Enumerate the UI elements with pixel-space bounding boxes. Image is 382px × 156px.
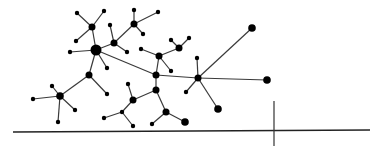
- graph-node: [56, 120, 60, 124]
- graph-node: [86, 72, 93, 79]
- graph-node: [105, 92, 109, 96]
- graph-node: [181, 118, 189, 126]
- graph-edge: [104, 112, 122, 118]
- graph-edge: [156, 90, 166, 112]
- graph-edge: [33, 96, 60, 99]
- graph-node: [91, 45, 102, 56]
- network-diagram: [0, 0, 382, 156]
- horizontal-axis-line: [13, 130, 370, 132]
- graph-node: [126, 82, 130, 86]
- graph-edges: [33, 10, 267, 126]
- graph-node: [153, 87, 160, 94]
- graph-node: [125, 50, 129, 54]
- graph-node: [102, 116, 106, 120]
- graph-node: [153, 72, 160, 79]
- graph-node: [150, 122, 154, 126]
- graph-node: [156, 10, 160, 14]
- graph-node: [169, 38, 173, 42]
- graph-node: [120, 110, 124, 114]
- graph-node: [131, 21, 138, 28]
- graph-edge: [89, 75, 107, 94]
- graph-node: [111, 40, 118, 47]
- graph-edge: [198, 78, 267, 80]
- graph-node: [131, 124, 135, 128]
- graph-edge: [134, 12, 158, 24]
- graph-node: [195, 56, 199, 60]
- graph-node: [74, 39, 78, 43]
- graph-node: [50, 84, 54, 88]
- graph-node: [108, 23, 112, 27]
- graph-node: [195, 75, 202, 82]
- graph-edge: [198, 28, 252, 78]
- graph-edge: [60, 75, 89, 96]
- graph-node: [132, 8, 136, 12]
- graph-node: [89, 24, 96, 31]
- graph-node: [130, 97, 137, 104]
- graph-node: [56, 92, 64, 100]
- graph-node: [139, 47, 143, 51]
- graph-edge: [198, 78, 218, 109]
- graph-node: [102, 9, 106, 13]
- graph-edge: [133, 90, 156, 100]
- graph-node: [31, 97, 35, 101]
- graph-node: [141, 32, 145, 36]
- graph-node: [105, 66, 109, 70]
- graph-edge: [156, 75, 198, 78]
- graph-node: [75, 11, 79, 15]
- graph-node: [73, 108, 77, 112]
- graph-edge: [58, 96, 60, 122]
- graph-node: [214, 105, 222, 113]
- graph-node: [163, 109, 170, 116]
- graph-node: [263, 76, 271, 84]
- graph-edge: [122, 112, 133, 126]
- graph-node: [169, 69, 173, 73]
- graph-nodes: [31, 8, 271, 128]
- graph-node: [156, 53, 163, 60]
- graph-node: [184, 90, 188, 94]
- graph-node: [187, 36, 191, 40]
- graph-node: [248, 24, 256, 32]
- graph-edge: [114, 24, 134, 43]
- graph-node: [176, 45, 183, 52]
- graph-node: [68, 50, 72, 54]
